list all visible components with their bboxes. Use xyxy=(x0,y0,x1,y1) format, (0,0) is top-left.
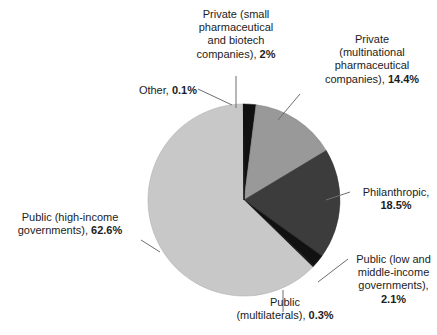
pie-label-public-low-middle-income-line2: middle-income xyxy=(358,266,430,278)
pie-label-public-multilaterals: Public (multilaterals), 0.3% xyxy=(217,296,353,322)
pie-label-public-high-income: Public (high-income governments), 62.6% xyxy=(2,211,138,237)
pie-label-philanthropic-value: 18.5% xyxy=(380,199,411,211)
pie-label-private-small-pharma-line4: companies), xyxy=(197,48,260,60)
pie-label-public-high-income-value: 62.6% xyxy=(91,224,122,236)
pie-label-public-low-middle-income-line3: governments), xyxy=(358,279,428,291)
pie-label-public-low-middle-income-value: 2.1% xyxy=(381,293,406,305)
leader-line-public-low-middle-income xyxy=(318,259,348,282)
pie-label-private-small-pharma-line1: Private (small xyxy=(203,8,270,20)
pie-label-public-low-middle-income: Public (low and middle-income government… xyxy=(350,253,437,306)
pie-label-private-multinational-line3: pharmaceutical xyxy=(335,59,410,71)
pie-label-private-multinational-line1: Private xyxy=(355,33,389,45)
pie-label-private-small-pharma-value: 2% xyxy=(260,48,276,60)
pie-label-other-line1: Other, xyxy=(139,84,172,96)
pie-label-other-value: 0.1% xyxy=(172,84,197,96)
pie-label-private-multinational-line2: (multinational xyxy=(339,46,404,58)
pie-label-philanthropic: Philanthropic, 18.5% xyxy=(355,186,437,212)
pie-label-other: Other, 0.1% xyxy=(113,84,197,97)
pie-label-public-high-income-line2: governments), xyxy=(18,224,91,236)
pie-label-public-multilaterals-line2: (multilaterals), xyxy=(236,309,308,321)
pie-label-private-multinational: Private (multinational pharmaceutical co… xyxy=(307,33,437,86)
pie-label-philanthropic-line1: Philanthropic, xyxy=(363,186,430,198)
pie-label-public-multilaterals-line1: Public xyxy=(270,296,300,308)
pie-label-private-multinational-value: 14.4% xyxy=(388,73,419,85)
pie-label-public-high-income-line1: Public (high-income xyxy=(22,211,119,223)
pie-slice-other[interactable] xyxy=(243,104,244,200)
pie-label-private-multinational-line4: companies), xyxy=(325,73,388,85)
pie-label-private-small-pharma: Private (small pharmaceutical and biotec… xyxy=(162,8,310,61)
pie-label-private-small-pharma-line3: and biotech xyxy=(208,34,265,46)
pie-label-public-low-middle-income-line1: Public (low and xyxy=(356,253,431,265)
leader-line-other xyxy=(198,89,232,105)
leader-line-public-high-income xyxy=(141,240,160,252)
pie-label-private-small-pharma-line2: pharmaceutical xyxy=(199,21,274,33)
pie-label-public-multilaterals-value: 0.3% xyxy=(309,309,334,321)
pie-chart-figure: Private (small pharmaceutical and biotec… xyxy=(0,0,437,335)
